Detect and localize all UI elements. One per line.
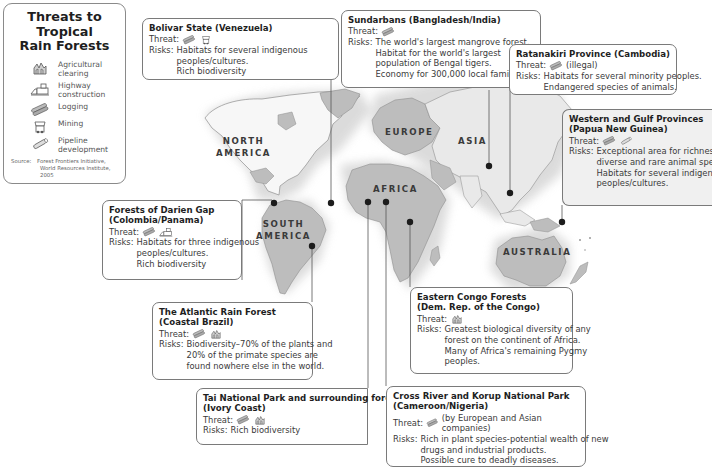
site-ratanakiri: Ratanakiri Province (Cambodia) Threat: (… — [509, 44, 677, 95]
label-north-america: NORTH AMERICA — [216, 135, 271, 159]
mining-icon — [199, 35, 213, 45]
legend-item-logging: Logging — [30, 102, 121, 116]
mining-icon — [30, 119, 50, 133]
highway-construction-icon — [159, 227, 173, 237]
label-africa: AFRICA — [373, 183, 418, 195]
agricultural-clearing-icon — [209, 329, 223, 339]
site-title: Tai National Park and surrounding forest… — [203, 393, 361, 403]
site-title: Eastern Congo Forests — [417, 292, 566, 302]
site-title: Forests of Darien Gap — [109, 205, 235, 215]
site-tai: Tai National Park and surrounding forest… — [196, 388, 368, 445]
highway-construction-icon — [30, 81, 50, 95]
site-title: Ratanakiri Province (Cambodia) — [516, 49, 670, 59]
agricultural-clearing-icon — [450, 314, 464, 324]
legend-source: Source:Forest Frontiers Initiative, Worl… — [8, 158, 121, 179]
site-title: Western and Gulf Provinces — [569, 114, 706, 124]
site-title: Cross River and Korup National Park — [393, 391, 579, 401]
site-darien: Forests of Darien Gap (Colombia/Panama) … — [102, 200, 242, 280]
logging-icon — [142, 227, 156, 237]
pipeline-development-icon — [619, 136, 633, 146]
site-bolivar: Bolivar State (Venezuela) Threat: Risks:… — [142, 18, 339, 80]
label-south-america: SOUTH AMERICA — [256, 218, 311, 242]
logging-icon — [381, 27, 395, 37]
agricultural-clearing-icon — [30, 60, 50, 74]
site-papua: Western and Gulf Provinces (Papua New Gu… — [562, 109, 712, 206]
marker-tai — [365, 199, 371, 205]
label-asia: ASIA — [458, 135, 487, 147]
legend-item-highway-construction: Highwayconstruction — [30, 81, 121, 99]
site-crossriver: Cross River and Korup National Park (Cam… — [386, 386, 586, 467]
legend-panel: Threats to Tropical Rain Forests Agricul… — [3, 3, 126, 184]
legend-item-pipeline-development: Pipelinedevelopment — [30, 136, 121, 154]
site-atlantic: The Atlantic Rain Forest (Coastal Brazil… — [152, 302, 313, 380]
marker-bolivar — [328, 200, 334, 206]
legend-item-mining: Mining — [30, 119, 121, 133]
logging-icon — [192, 329, 206, 339]
legend-title: Threats to Tropical Rain Forests — [8, 10, 121, 54]
africa-landmass — [346, 164, 446, 282]
marker-papua — [559, 219, 565, 225]
site-title: The Atlantic Rain Forest — [159, 307, 306, 317]
logging-icon — [30, 102, 50, 116]
marker-crossriver — [383, 199, 389, 205]
legend-item-agricultural-clearing: Agriculturalclearing — [30, 60, 121, 78]
pipeline-development-icon — [30, 136, 50, 150]
marker-atlantic — [309, 243, 315, 249]
logging-icon — [426, 418, 439, 428]
label-australia: AUSTRALIA — [503, 246, 571, 258]
marker-darien — [271, 200, 277, 206]
logging-icon — [182, 35, 196, 45]
logging-icon — [236, 415, 250, 425]
site-congo: Eastern Congo Forests (Dem. Rep. of the … — [410, 287, 573, 374]
site-title: Bolivar State (Venezuela) — [149, 23, 332, 33]
site-title: Sundarbans (Bangladesh/India) — [348, 15, 534, 25]
label-europe: EUROPE — [385, 126, 434, 138]
marker-congo — [407, 219, 413, 225]
marker-ratanakiri — [507, 190, 513, 196]
agricultural-clearing-icon — [253, 415, 267, 425]
logging-icon — [602, 136, 616, 146]
marker-sundarbans — [486, 163, 492, 169]
logging-icon — [549, 61, 563, 71]
